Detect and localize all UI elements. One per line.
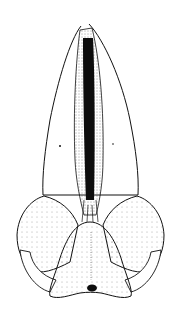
skull-drawing: [0, 0, 181, 321]
foramen-magnum: [87, 285, 97, 292]
right-foramen: [112, 143, 114, 145]
skull-illustration: [0, 0, 181, 321]
left-foramen: [59, 145, 61, 147]
